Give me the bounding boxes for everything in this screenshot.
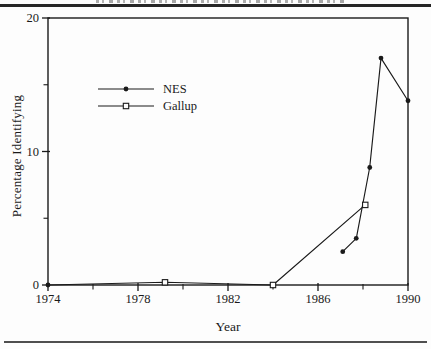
legend-item-nes: NES — [97, 80, 197, 97]
x-tick-label-1978: 1978 — [126, 292, 151, 306]
series-line-nes — [343, 58, 408, 252]
legend-label-gallup: Gallup — [163, 100, 197, 112]
data-point-nes-4 — [379, 56, 384, 61]
data-point-nes-5 — [406, 98, 411, 103]
bottom-rule — [4, 341, 427, 343]
y-tick-label-10: 10 — [27, 145, 40, 159]
legend-item-gallup: Gallup — [97, 97, 197, 114]
x-tick-label-1986: 1986 — [306, 292, 331, 306]
chart-legend: NESGallup — [97, 80, 197, 114]
y-tick-label-0: 0 — [33, 278, 39, 292]
legend-marker-nes-icon — [124, 86, 129, 91]
x-axis-title: Year — [48, 319, 408, 335]
data-point-gallup-3 — [363, 202, 368, 207]
y-axis-title: Percentage Identifying — [9, 91, 25, 221]
legend-marker-gallup-icon — [123, 103, 128, 108]
y-tick-label-20: 20 — [27, 11, 40, 25]
figure-page: 1974197819821986199001020 Percentage Ide… — [0, 0, 431, 349]
series-gallup — [48, 202, 368, 287]
legend-swatch-nes-icon — [97, 82, 155, 96]
x-tick-label-1982: 1982 — [216, 292, 241, 306]
data-point-nes-1 — [340, 249, 345, 254]
legend-label-nes: NES — [163, 83, 187, 95]
data-point-gallup-2 — [270, 282, 275, 287]
data-point-nes-2 — [354, 236, 359, 241]
data-point-nes-3 — [367, 165, 372, 170]
data-point-gallup-1 — [162, 280, 167, 285]
line-chart-plot: 1974197819821986199001020 — [0, 0, 431, 349]
plot-frame — [48, 18, 408, 285]
x-tick-label-1974: 1974 — [36, 292, 62, 306]
x-tick-label-1990: 1990 — [396, 292, 421, 306]
series-line-gallup — [48, 205, 365, 285]
legend-swatch-gallup-icon — [97, 99, 155, 113]
